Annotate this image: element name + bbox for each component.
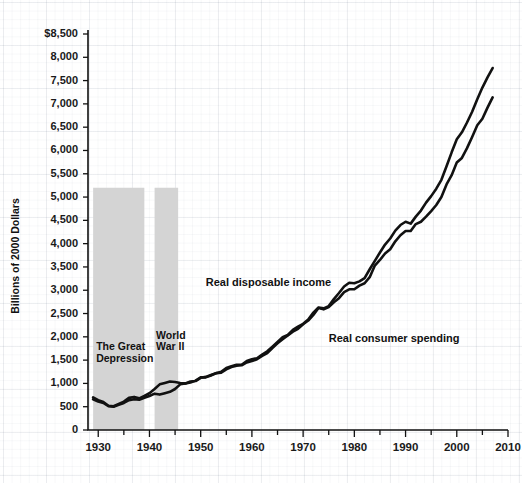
y-tick-label: 7,500 xyxy=(0,74,78,86)
y-tick-label: 2,500 xyxy=(0,307,78,319)
x-tick-label: 2010 xyxy=(478,441,522,453)
y-tick-label: 7,000 xyxy=(0,97,78,109)
y-tick-label: $8,500 xyxy=(0,27,78,39)
series-label-real-consumer-spending: Real consumer spending xyxy=(329,332,460,344)
chart-canvas: Billions of 2000 Dollars $8,5008,0007,50… xyxy=(0,0,522,483)
y-tick-label: 5,000 xyxy=(0,190,78,202)
series-label-real-disposable-income: Real disposable income xyxy=(206,276,331,288)
y-tick-label: 1,000 xyxy=(0,376,78,388)
y-tick-label: 3,500 xyxy=(0,260,78,272)
axis-lines xyxy=(88,30,508,430)
y-tick-label: 8,000 xyxy=(0,50,78,62)
y-tick-label: 1,500 xyxy=(0,353,78,365)
y-tick-label: 4,500 xyxy=(0,213,78,225)
era-label-world-war-ii: World War II xyxy=(156,330,186,353)
y-tick-label: 5,500 xyxy=(0,167,78,179)
era-band-the-great-depression xyxy=(93,188,144,430)
y-tick-label: 6,000 xyxy=(0,143,78,155)
era-label-the-great-depression: The Great Depression xyxy=(96,341,153,364)
y-tick-label: 500 xyxy=(0,400,78,412)
y-tick-label: 4,000 xyxy=(0,237,78,249)
y-tick-label: 3,000 xyxy=(0,283,78,295)
y-tick-label: 2,000 xyxy=(0,330,78,342)
y-tick-label: 0 xyxy=(0,423,78,435)
y-tick-label: 6,500 xyxy=(0,120,78,132)
chart-plot-svg xyxy=(0,0,522,483)
